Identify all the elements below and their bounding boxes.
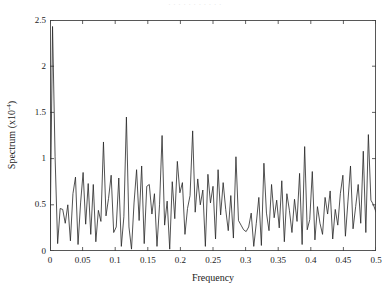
cut-off-caption-artifact: · · · · · · · · · · · xyxy=(0,0,390,10)
x-tick-label: 0.35 xyxy=(260,256,296,265)
x-tick-label: 0.5 xyxy=(358,256,390,265)
x-tick-label: 0 xyxy=(32,256,68,265)
plot-background xyxy=(50,20,376,251)
x-tick-label: 0.2 xyxy=(162,256,198,265)
x-axis-label: Frequency xyxy=(50,272,376,283)
spectrum-plot-svg xyxy=(50,20,376,251)
plot-area xyxy=(50,20,376,251)
x-tick-label: 0.25 xyxy=(195,256,231,265)
y-axis-label: Spectrum (x10-4) xyxy=(1,20,17,251)
x-tick-label: 0.05 xyxy=(65,256,101,265)
y-tick-label: 2 xyxy=(16,62,46,71)
x-tick-label: 0.4 xyxy=(293,256,329,265)
x-tick-label: 0.45 xyxy=(325,256,361,265)
y-axis-label-text: Spectrum (x10 xyxy=(6,110,17,169)
y-axis-label-suffix: ) xyxy=(6,101,17,104)
y-tick-label: 0 xyxy=(16,247,46,256)
spectrum-figure: · · · · · · · · · · · 00.511.522.5 00.05… xyxy=(0,0,390,297)
x-tick-label: 0.3 xyxy=(228,256,264,265)
y-tick-label: 1 xyxy=(16,154,46,163)
y-axis-label-exponent: -4 xyxy=(5,104,13,110)
y-tick-label: 0.5 xyxy=(16,200,46,209)
x-tick-label: 0.1 xyxy=(97,256,133,265)
x-tick-label: 0.15 xyxy=(130,256,166,265)
y-tick-label: 1.5 xyxy=(16,108,46,117)
y-tick-label: 2.5 xyxy=(16,16,46,25)
